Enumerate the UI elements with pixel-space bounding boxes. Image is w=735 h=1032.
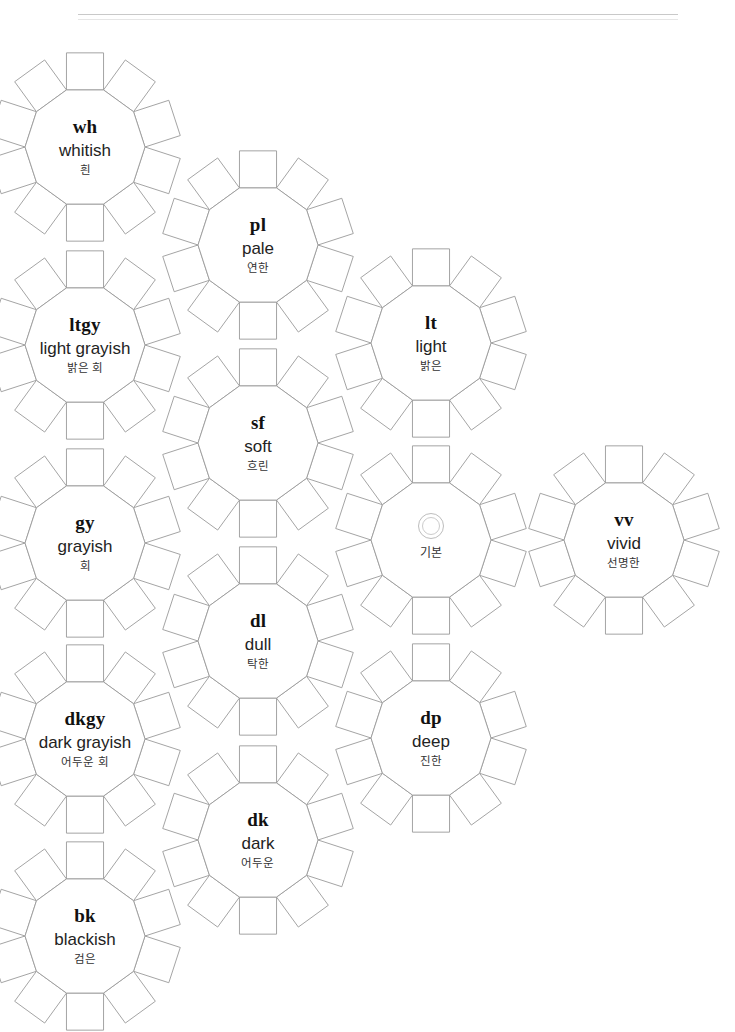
cluster-core-wh: [25, 90, 145, 204]
cluster-dk: [163, 746, 354, 934]
petal-square: [605, 446, 642, 483]
cluster-dl: [163, 547, 354, 735]
cluster-core-ltgy: [25, 288, 145, 402]
cluster-lt: [336, 249, 527, 437]
petal-square: [412, 644, 449, 681]
cluster-core-lt: [371, 286, 491, 400]
cluster-dkgy: [0, 645, 180, 833]
cluster-vv: [529, 446, 720, 634]
petal-square: [239, 302, 276, 339]
cluster-core-gy: [25, 486, 145, 600]
cluster-core-dp: [371, 681, 491, 795]
petal-square: [66, 53, 103, 90]
petal-square: [66, 645, 103, 682]
cluster-dp: [336, 644, 527, 832]
petal-square: [412, 400, 449, 437]
petal-square: [412, 795, 449, 832]
petal-square: [66, 842, 103, 879]
cluster-core-vv: [564, 483, 684, 597]
tone-chart-page: whwhitish흰plpale연한ltgylight grayish밝은 회l…: [0, 0, 735, 1032]
petal-square: [66, 993, 103, 1030]
cluster-core-bk: [25, 879, 145, 993]
petal-square: [66, 449, 103, 486]
petal-square: [239, 547, 276, 584]
petal-square: [239, 897, 276, 934]
petal-square: [239, 349, 276, 386]
petal-square: [66, 251, 103, 288]
cluster-core-dl: [198, 584, 318, 698]
cluster-core-pl: [198, 188, 318, 302]
cluster-neutral: [336, 446, 527, 634]
petal-square: [412, 597, 449, 634]
cluster-core-dkgy: [25, 682, 145, 796]
petal-square: [605, 597, 642, 634]
petal-square: [66, 600, 103, 637]
petal-square: [239, 500, 276, 537]
cluster-ltgy: [0, 251, 180, 439]
cluster-core-sf: [198, 386, 318, 500]
petal-square: [412, 446, 449, 483]
petal-square: [66, 402, 103, 439]
cluster-sf: [163, 349, 354, 537]
cluster-pl: [163, 151, 354, 339]
cluster-gy: [0, 449, 180, 637]
petal-square: [66, 204, 103, 241]
cluster-wh: [0, 53, 180, 241]
cluster-core-neutral: [371, 483, 491, 597]
petal-square: [412, 249, 449, 286]
double-ring-icon: [418, 513, 444, 539]
cluster-core-dk: [198, 783, 318, 897]
petal-square: [239, 746, 276, 783]
petal-square: [239, 151, 276, 188]
petal-square: [66, 796, 103, 833]
tone-cluster-diagram: [0, 0, 735, 1032]
cluster-bk: [0, 842, 180, 1030]
petal-square: [239, 698, 276, 735]
